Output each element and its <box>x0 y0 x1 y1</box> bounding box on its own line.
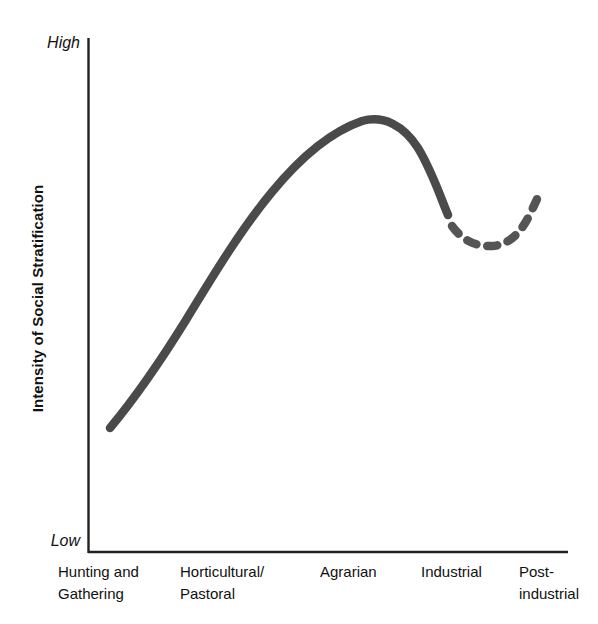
x-tick-label-industrial: Industrial <box>421 561 482 583</box>
y-axis-high-label: High <box>10 34 80 52</box>
x-tick-label-horticultural-pastoral: Horticultural/ Pastoral <box>180 561 264 605</box>
y-axis-low-label: Low <box>10 532 80 550</box>
x-tick-label-agrarian: Agrarian <box>320 561 377 583</box>
chart-figure: High Low Intensity of Social Stratificat… <box>0 0 598 624</box>
y-axis-title: Intensity of Social Stratification <box>29 134 46 464</box>
x-tick-label-hunting-and-gathering: Hunting and Gathering <box>58 561 139 605</box>
trend-line-dashed <box>452 190 541 246</box>
x-tick-label-post-industrial: Post- industrial <box>519 561 579 605</box>
trend-line-solid <box>110 119 448 428</box>
x-axis-tick-labels: Hunting and Gathering Horticultural/ Pas… <box>58 561 588 621</box>
plot-area <box>0 0 598 624</box>
